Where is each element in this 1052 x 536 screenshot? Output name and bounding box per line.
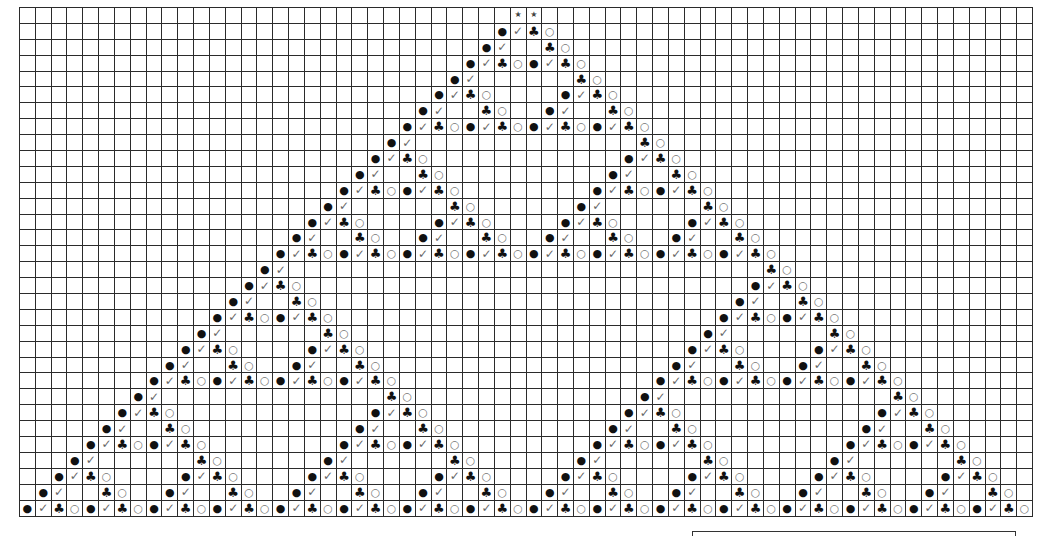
grid-cell <box>653 24 669 40</box>
grid-cell <box>780 389 796 405</box>
grid-cell <box>764 72 780 88</box>
grid-cell <box>115 469 131 485</box>
grid-cell: ○ <box>352 342 368 358</box>
filled-circle-icon: ● <box>624 153 634 164</box>
check-mark-icon: ✓ <box>418 184 428 196</box>
grid-cell <box>20 40 36 56</box>
grid-cell: ○ <box>447 183 463 199</box>
club-icon: ♣ <box>860 486 872 499</box>
grid-cell <box>273 87 289 103</box>
grid-cell <box>827 358 843 374</box>
grid-cell: ♣ <box>606 485 622 501</box>
grid-cell <box>226 215 242 231</box>
club-icon: ♣ <box>813 374 825 387</box>
filled-circle-icon: ● <box>339 248 349 259</box>
club-icon: ♣ <box>908 406 920 419</box>
grid-cell <box>1001 40 1017 56</box>
check-mark-icon: ✓ <box>418 121 428 133</box>
grid-cell <box>859 278 875 294</box>
grid-cell: ○ <box>368 485 384 501</box>
grid-cell <box>732 262 748 278</box>
filled-circle-icon: ● <box>672 487 682 498</box>
grid-cell: ♣ <box>305 501 321 517</box>
check-mark-icon: ✓ <box>735 502 745 514</box>
grid-cell <box>574 389 590 405</box>
grid-cell: ○ <box>859 342 875 358</box>
grid-cell <box>67 373 83 389</box>
grid-cell <box>67 246 83 262</box>
grid-cell <box>20 199 36 215</box>
grid-cell: ● <box>606 421 622 437</box>
open-circle-icon: ○ <box>956 439 966 450</box>
grid-cell <box>36 87 52 103</box>
grid-cell <box>970 8 986 24</box>
legend-box <box>692 531 1016 536</box>
grid-cell <box>20 103 36 119</box>
grid-cell: ♣ <box>368 373 384 389</box>
grid-cell <box>321 151 337 167</box>
open-circle-icon: ○ <box>640 121 650 132</box>
grid-cell: ♣ <box>400 151 416 167</box>
grid-cell: ♣ <box>400 405 416 421</box>
grid-cell <box>432 453 448 469</box>
grid-cell: ○ <box>701 246 717 262</box>
grid-cell: ♣ <box>701 453 717 469</box>
grid-cell <box>463 310 479 326</box>
grid-cell <box>891 310 907 326</box>
grid-cell <box>954 278 970 294</box>
grid-cell <box>242 453 258 469</box>
grid-cell <box>384 358 400 374</box>
grid-cell <box>748 135 764 151</box>
grid-cell <box>701 24 717 40</box>
grid-cell: ✓ <box>669 373 685 389</box>
grid-cell <box>986 72 1002 88</box>
open-circle-icon: ○ <box>782 264 792 275</box>
grid-cell <box>701 278 717 294</box>
club-icon: ♣ <box>560 247 572 260</box>
grid-cell <box>875 87 891 103</box>
grid-cell <box>764 437 780 453</box>
grid-cell <box>400 326 416 342</box>
grid-cell <box>210 119 226 135</box>
grid-cell <box>906 72 922 88</box>
grid-cell: ○ <box>162 405 178 421</box>
check-mark-icon: ✓ <box>687 232 697 244</box>
grid-cell <box>542 8 558 24</box>
grid-cell: ✓ <box>368 167 384 183</box>
grid-cell <box>637 310 653 326</box>
grid-cell: ✓ <box>67 469 83 485</box>
grid-cell: ● <box>162 485 178 501</box>
filled-circle-icon: ● <box>909 439 919 450</box>
grid-cell <box>289 24 305 40</box>
grid-cell: ● <box>273 246 289 262</box>
club-icon: ♣ <box>386 390 398 403</box>
grid-cell: ♣ <box>495 119 511 135</box>
grid-cell <box>210 135 226 151</box>
filled-circle-icon: ● <box>38 487 48 498</box>
grid-cell <box>147 421 163 437</box>
grid-cell <box>922 342 938 358</box>
grid-cell: ✓ <box>289 310 305 326</box>
grid-cell <box>99 246 115 262</box>
grid-cell <box>178 8 194 24</box>
grid-cell <box>558 373 574 389</box>
grid-cell: ● <box>811 342 827 358</box>
filled-circle-icon: ● <box>640 391 650 402</box>
check-mark-icon: ✓ <box>276 264 286 276</box>
grid-cell <box>685 8 701 24</box>
grid-cell <box>20 278 36 294</box>
grid-cell <box>606 358 622 374</box>
grid-cell <box>289 103 305 119</box>
grid-cell: ✓ <box>416 246 432 262</box>
grid-cell: ✓ <box>162 373 178 389</box>
grid-cell <box>257 437 273 453</box>
club-icon: ♣ <box>639 136 651 149</box>
grid-cell <box>337 87 353 103</box>
check-mark-icon: ✓ <box>893 407 903 419</box>
grid-cell <box>384 310 400 326</box>
check-mark-icon: ✓ <box>260 280 270 292</box>
grid-cell <box>843 278 859 294</box>
grid-cell <box>986 151 1002 167</box>
club-icon: ♣ <box>623 438 635 451</box>
grid-cell <box>115 167 131 183</box>
